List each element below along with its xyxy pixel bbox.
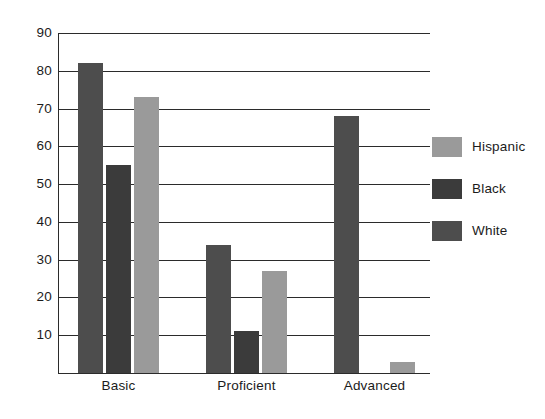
y-tick-label-30: 30: [6, 253, 52, 267]
y-tick-label-70: 70: [6, 102, 52, 116]
bar-advanced-white: [334, 116, 359, 373]
bar-proficient-black: [234, 331, 259, 373]
y-tick-label-40: 40: [6, 215, 52, 229]
bar-proficient-white: [206, 245, 231, 373]
plot-area: [58, 33, 430, 373]
legend-swatch-white: [432, 221, 462, 241]
x-tick-label-basic: Basic: [59, 378, 179, 394]
y-tick-label-90: 90: [6, 26, 52, 40]
bar-basic-white: [78, 63, 103, 373]
bar-basic-black: [106, 165, 131, 373]
y-tick-label-60: 60: [6, 139, 52, 153]
y-tick-label-80: 80: [6, 64, 52, 78]
legend-label-white: White: [472, 222, 508, 240]
bar-advanced-hispanic: [390, 362, 415, 373]
y-tick-label-10: 10: [6, 328, 52, 342]
bar-proficient-hispanic: [262, 271, 287, 373]
legend-item-white[interactable]: White: [432, 218, 542, 260]
y-tick-label-20: 20: [6, 290, 52, 304]
legend-item-hispanic[interactable]: Hispanic: [432, 134, 542, 176]
x-axis-line: [58, 373, 430, 374]
x-tick-label-proficient: Proficient: [187, 378, 307, 394]
chart-legend: HispanicBlackWhite: [432, 134, 542, 260]
x-axis-tick-labels: BasicProficientAdvanced: [58, 378, 430, 402]
y-axis-tick-labels: 102030405060708090: [0, 0, 52, 419]
bar-basic-hispanic: [134, 97, 159, 373]
bar-chart: 102030405060708090 BasicProficientAdvanc…: [0, 0, 545, 419]
legend-label-hispanic: Hispanic: [472, 138, 525, 156]
y-tick-label-50: 50: [6, 177, 52, 191]
bars-layer: [58, 33, 430, 373]
legend-swatch-hispanic: [432, 137, 462, 157]
legend-label-black: Black: [472, 180, 506, 198]
legend-item-black[interactable]: Black: [432, 176, 542, 218]
x-tick-label-advanced: Advanced: [315, 378, 435, 394]
legend-swatch-black: [432, 179, 462, 199]
